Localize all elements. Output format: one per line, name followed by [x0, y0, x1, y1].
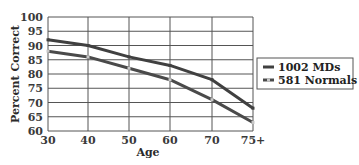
- series-lines: [47, 38, 255, 124]
- data-point-marker: [87, 44, 90, 47]
- x-tick-label: 30: [40, 134, 56, 147]
- data-point-marker: [87, 55, 90, 58]
- legend-label-mds: 1002 MDs: [278, 61, 340, 74]
- x-tick-label: 40: [80, 134, 96, 147]
- x-tick-label: 60: [162, 134, 178, 147]
- y-tick-label: 100: [20, 11, 43, 24]
- data-point-marker: [128, 55, 131, 58]
- line-chart: 6065707580859095100 304050607075+ Percen…: [0, 0, 359, 165]
- data-point-marker: [47, 50, 50, 53]
- data-point-marker: [169, 64, 172, 67]
- y-tick-label: 90: [28, 40, 44, 53]
- x-tick-label: 75+: [241, 134, 266, 147]
- data-point-marker: [169, 78, 172, 81]
- x-tick-label: 50: [121, 134, 137, 147]
- y-tick-label: 65: [28, 111, 43, 124]
- data-point-marker: [252, 107, 255, 110]
- y-tick-label: 75: [28, 82, 43, 95]
- data-point-marker: [252, 121, 255, 124]
- x-axis-label: Age: [135, 146, 159, 159]
- data-point-marker: [211, 98, 214, 101]
- y-axis-label: Percent Correct: [9, 24, 22, 123]
- y-axis-ticks: 6065707580859095100: [20, 11, 43, 138]
- x-tick-label: 70: [204, 134, 220, 147]
- data-point-marker: [128, 67, 131, 70]
- legend-label-normals: 581 Normals: [278, 74, 357, 87]
- y-tick-label: 80: [28, 68, 44, 81]
- y-tick-label: 70: [28, 97, 44, 110]
- y-tick-label: 95: [28, 25, 43, 38]
- data-point-marker: [211, 78, 214, 81]
- data-point-marker: [47, 38, 50, 41]
- y-tick-label: 85: [28, 54, 43, 67]
- legend: 1002 MDs 581 Normals: [257, 58, 357, 89]
